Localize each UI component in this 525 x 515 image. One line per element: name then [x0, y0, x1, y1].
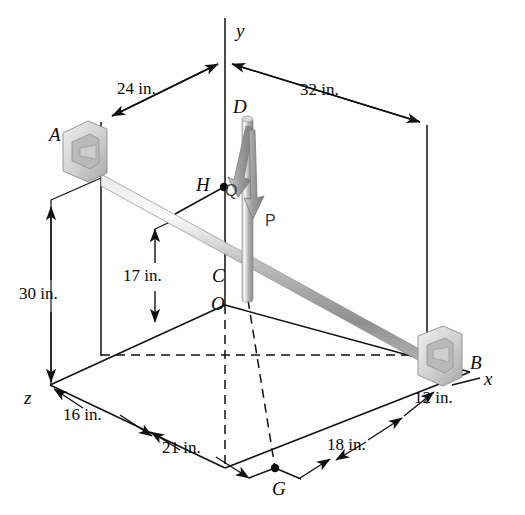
- dim-label-17in: 17 in.: [123, 266, 162, 286]
- dim-label-12in: 12 in.: [414, 388, 453, 408]
- dim-label-21in: 21 in.: [162, 438, 201, 458]
- point-label-C: C: [212, 265, 225, 287]
- y-axis-label: y: [236, 20, 244, 42]
- point-G-marker: [271, 464, 279, 472]
- figure-canvas: y x z A B C D G H O P Q 24 in. 32 in. 30…: [0, 0, 525, 515]
- point-label-O: O: [211, 293, 225, 315]
- z-axis-label: z: [24, 387, 31, 409]
- support-bracket-B: [418, 326, 462, 386]
- point-label-B: B: [470, 352, 482, 374]
- base-plane: [50, 372, 470, 468]
- dim-12in-arrow-right: [368, 418, 402, 440]
- point-label-A: A: [49, 124, 61, 146]
- point-label-H: H: [196, 174, 210, 196]
- figure-drawing: [0, 0, 525, 515]
- x-axis-label: x: [484, 368, 492, 390]
- dim-18in-arrow-left: [300, 459, 330, 478]
- dim-label-16in: 16 in.: [63, 405, 102, 425]
- dim-label-24in: 24 in.: [117, 79, 156, 99]
- force-label-P: P: [265, 212, 276, 230]
- dim-label-30in: 30 in.: [19, 284, 58, 304]
- z-axis-line: [50, 305, 225, 385]
- dim-16in-arrow-right: [120, 415, 152, 436]
- ext-tick-30in: [51, 178, 101, 200]
- support-bracket-A: [63, 121, 107, 182]
- point-label-G: G: [272, 478, 286, 500]
- dashed-D-to-G: [248, 300, 275, 468]
- point-label-D: D: [233, 96, 247, 118]
- force-label-Q: Q: [225, 182, 237, 200]
- dim-label-32in: 32 in.: [300, 80, 339, 100]
- dim-label-18in: 18 in.: [327, 435, 366, 455]
